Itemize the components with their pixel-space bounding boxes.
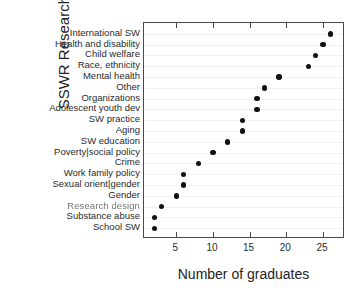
y-axis-label-sw-practice: SW practice <box>89 114 140 124</box>
data-point <box>306 64 311 69</box>
data-point <box>254 96 259 101</box>
y-axis-label-child-welfare: Child welfare <box>85 49 140 59</box>
y-axis-label-substance-abuse: Substance abuse <box>67 211 140 221</box>
x-axis-title: Number of graduates <box>143 266 344 282</box>
gridline <box>144 174 343 175</box>
y-axis-label-other: Other <box>116 82 140 92</box>
y-axis-label-sw-education: SW education <box>81 136 140 146</box>
data-point <box>276 74 281 79</box>
gridline <box>144 142 343 143</box>
data-point <box>152 215 157 220</box>
dot-plot-figure: SSWR Research topics International SWHea… <box>0 0 363 297</box>
x-axis-tick-bottom <box>213 232 214 237</box>
x-axis-tick-label-20: 20 <box>280 242 291 253</box>
x-axis-tick-top <box>250 23 251 28</box>
x-axis-tick-top <box>213 23 214 28</box>
y-axis-label-mental-health: Mental health <box>83 71 140 81</box>
y-axis-category-labels: International SWHealth and disabilityChi… <box>20 22 140 238</box>
y-axis-label-school-sw: School SW <box>93 222 140 232</box>
data-point <box>196 161 201 166</box>
x-axis-tick-top <box>323 23 324 28</box>
data-point <box>240 118 245 123</box>
data-point <box>181 172 186 177</box>
data-point <box>152 226 157 231</box>
x-axis-tick-top <box>176 23 177 28</box>
y-axis-label-work-family-policy: Work family policy <box>64 168 140 178</box>
gridline <box>144 77 343 78</box>
gridline <box>144 109 343 110</box>
gridline <box>144 228 343 229</box>
y-axis-label-sexual-orient-gender: Sexual orient|gender <box>53 179 141 189</box>
gridline <box>144 45 343 46</box>
gridline <box>144 185 343 186</box>
gridline <box>144 88 343 89</box>
y-axis-label-international-sw: International SW <box>70 28 140 38</box>
y-axis-label-adolescent-youth-dev: Adolescent youth dev <box>49 103 140 113</box>
data-point <box>225 139 230 144</box>
data-point <box>262 85 267 90</box>
x-axis-tick-bottom <box>286 232 287 237</box>
data-point <box>328 31 333 36</box>
y-axis-label-crime: Crime <box>115 157 140 167</box>
y-axis-label-organizations: Organizations <box>81 93 140 103</box>
gridline <box>144 217 343 218</box>
gridline <box>144 66 343 67</box>
x-axis-tick-bottom <box>176 232 177 237</box>
x-axis-tick-label-5: 5 <box>172 242 178 253</box>
y-axis-label-research-design: Research design <box>67 201 140 211</box>
gridline <box>144 99 343 100</box>
x-axis-tick-label-15: 15 <box>243 242 254 253</box>
x-axis-tick-bottom <box>250 232 251 237</box>
y-axis-label-health-and-disability: Health and disability <box>55 39 140 49</box>
data-point <box>159 204 164 209</box>
plot-area <box>143 22 344 238</box>
data-point <box>313 53 318 58</box>
data-point <box>210 150 215 155</box>
y-axis-label-gender: Gender <box>108 190 140 200</box>
x-axis-tick-bottom <box>323 232 324 237</box>
x-axis-tick-labels: 510152025 <box>143 242 344 256</box>
data-point <box>181 182 186 187</box>
data-point <box>240 128 245 133</box>
y-axis-label-poverty-social-policy: Poverty|social policy <box>54 147 140 157</box>
data-point <box>320 42 325 47</box>
gridline <box>144 163 343 164</box>
gridline <box>144 207 343 208</box>
y-axis-label-aging: Aging <box>116 125 140 135</box>
x-axis-tick-label-10: 10 <box>206 242 217 253</box>
x-axis-tick-label-25: 25 <box>316 242 327 253</box>
data-point <box>174 193 179 198</box>
data-point <box>254 107 259 112</box>
x-axis-tick-top <box>286 23 287 28</box>
gridline <box>144 153 343 154</box>
y-axis-label-race-ethnicity: Race, ethnicity <box>78 60 140 70</box>
gridline <box>144 34 343 35</box>
